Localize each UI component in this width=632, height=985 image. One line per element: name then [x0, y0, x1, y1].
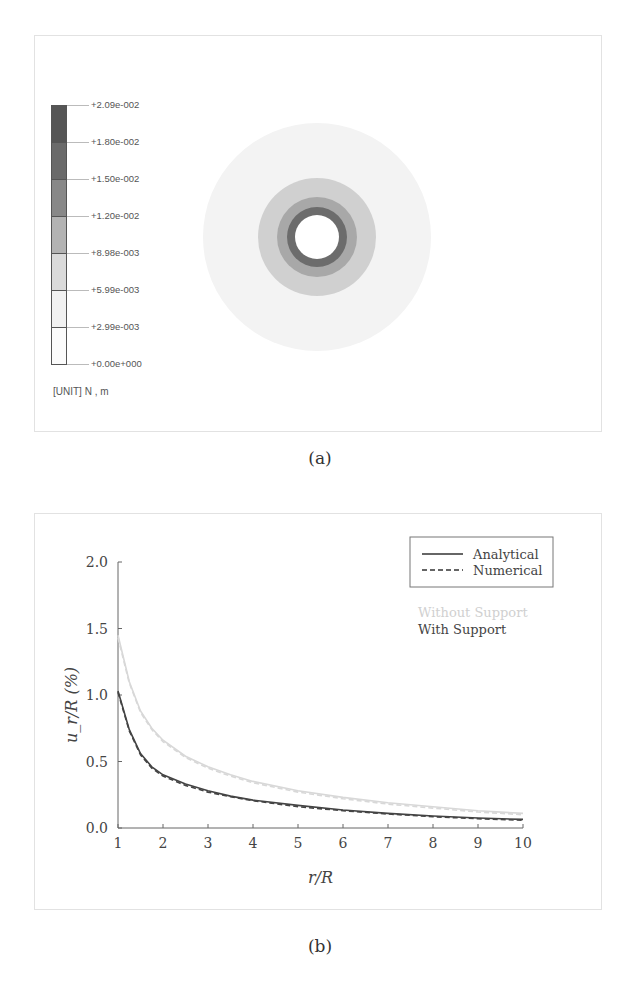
colorbar-tick [67, 364, 89, 365]
y-tick-label: 0.5 [86, 754, 108, 770]
contour-ring [287, 207, 347, 267]
y-axis-label: u_r/R (%) [62, 667, 81, 743]
contour-ring [277, 197, 357, 277]
x-tick-label: 3 [204, 835, 213, 851]
x-tick-label: 4 [249, 835, 258, 851]
chart-axes: 123456789100.00.51.01.52.0r/Ru_r/R (%) [62, 554, 532, 887]
x-tick-label: 6 [339, 835, 348, 851]
contour-ring [258, 178, 376, 296]
series-line [118, 638, 523, 815]
unit-label: [UNIT] N , m [53, 386, 109, 397]
colorbar-tick [67, 253, 89, 254]
x-tick-label: 2 [159, 835, 168, 851]
legend-analytical-label: Analytical [472, 547, 539, 562]
colorbar-tick [67, 327, 89, 328]
colorbar-label: +1.50e-002 [91, 173, 139, 184]
y-tick-label: 2.0 [86, 554, 108, 570]
figure-b-caption: (b) [270, 936, 370, 956]
colorbar-tick [67, 179, 89, 180]
chart-curves [118, 635, 523, 820]
colorbar-label: +0.00e+000 [91, 358, 142, 369]
displacement-line-chart: 123456789100.00.51.01.52.0r/Ru_r/R (%) A… [35, 514, 603, 911]
x-axis-label: r/R [308, 868, 333, 887]
chart-legend: Analytical Numerical Without Support Wit… [410, 537, 553, 637]
x-tick-label: 1 [114, 835, 123, 851]
displacement-contour-plot [35, 36, 603, 433]
y-tick-label: 1.0 [86, 687, 108, 703]
legend-without-support-label: Without Support [418, 605, 528, 620]
legend-numerical-label: Numerical [473, 563, 542, 578]
x-tick-label: 5 [294, 835, 303, 851]
legend-with-support-label: With Support [418, 622, 507, 637]
colorbar-segment [51, 216, 67, 254]
contour-figure-panel: +2.09e-002+1.80e-002+1.50e-002+1.20e-002… [34, 35, 602, 432]
colorbar-segment [51, 179, 67, 217]
colorbar-label: +2.99e-003 [91, 321, 139, 332]
colorbar-label: +1.80e-002 [91, 136, 139, 147]
colorbar-tick [67, 290, 89, 291]
colorbar-segment [51, 142, 67, 180]
series-line [118, 635, 523, 813]
x-tick-label: 10 [514, 835, 532, 851]
colorbar-tick [67, 142, 89, 143]
colorbar-segment [51, 253, 67, 291]
colorbar-tick [67, 216, 89, 217]
colorbar-segment [51, 105, 67, 143]
y-tick-label: 0.0 [86, 820, 108, 836]
colorbar-label: +2.09e-002 [91, 99, 139, 110]
contour-ring [295, 215, 339, 259]
figure-a-caption: (a) [270, 448, 370, 468]
colorbar-tick [67, 105, 89, 106]
series-line [118, 692, 523, 820]
y-tick-label: 1.5 [86, 621, 108, 637]
x-tick-label: 8 [429, 835, 438, 851]
colorbar-label: +1.20e-002 [91, 210, 139, 221]
series-line [118, 691, 523, 819]
contour-ring [203, 123, 431, 351]
displacement-line-chart-panel: 123456789100.00.51.01.52.0r/Ru_r/R (%) A… [34, 513, 602, 910]
colorbar-segment [51, 327, 67, 365]
colorbar-label: +5.99e-003 [91, 284, 139, 295]
colorbar-label: +8.98e-003 [91, 247, 139, 258]
colorbar-segment [51, 290, 67, 328]
x-tick-label: 9 [474, 835, 483, 851]
x-tick-label: 7 [384, 835, 393, 851]
